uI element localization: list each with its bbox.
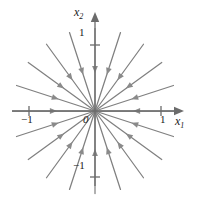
- flow-direction-arrow: [131, 122, 139, 128]
- flow-direction-arrow: [106, 147, 112, 155]
- y-axis-tick-label-negative-one: −1: [73, 160, 85, 171]
- origin-label: 0: [83, 114, 89, 125]
- y-axis-arrowhead: [91, 12, 99, 22]
- flow-direction-arrow: [126, 82, 133, 88]
- flow-direction-arrow: [78, 147, 84, 155]
- x-axis-tick-label-positive-one: 1: [160, 114, 166, 125]
- flow-direction-arrow: [66, 73, 72, 80]
- flow-direction-arrow: [117, 73, 123, 80]
- phase-portrait-figure: x2 x1 1 −1 1 −1 0: [0, 0, 198, 198]
- flow-direction-arrow: [51, 94, 59, 100]
- flow-direction-arrow: [57, 133, 64, 139]
- flow-direction-arrow: [57, 82, 64, 88]
- flow-direction-arrow: [51, 122, 59, 128]
- y-axis-label: x2: [74, 6, 83, 21]
- x-axis-label: x1: [175, 115, 184, 130]
- flow-direction-arrow: [78, 67, 84, 75]
- phase-portrait-canvas: [0, 0, 198, 198]
- axes-group: [12, 12, 184, 186]
- y-axis-tick-label-positive-one: 1: [79, 27, 85, 38]
- flow-direction-arrow: [131, 94, 139, 100]
- flow-direction-arrow: [126, 133, 133, 139]
- flow-direction-arrow: [106, 67, 112, 75]
- flow-direction-arrow: [66, 142, 72, 149]
- x-axis-tick-label-negative-one: −1: [21, 114, 33, 125]
- flow-direction-arrow: [117, 142, 123, 149]
